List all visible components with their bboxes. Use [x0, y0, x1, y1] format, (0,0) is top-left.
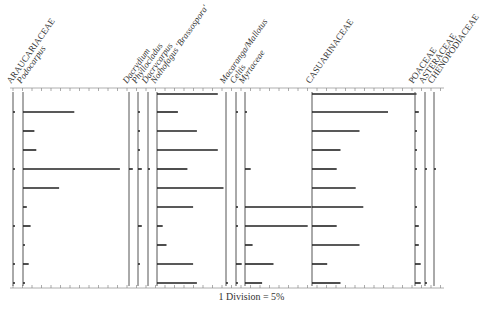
column-macaranga-mallotus [226, 92, 228, 286]
column-dacrycarpus [148, 92, 150, 286]
taxon-columns [13, 92, 436, 286]
taxon-label: ARAUCARIACEAE [4, 16, 57, 85]
axes [10, 88, 444, 288]
column-myrtaceae [245, 92, 312, 286]
column-poaceae [415, 92, 421, 286]
column-nothofagus-brassospora- [157, 92, 224, 286]
column-casuarinaceae [312, 92, 417, 286]
pollen-diagram: ARAUCARIACEAEPodocarpusDacrydiumPhyllocl… [0, 0, 503, 315]
column-podocarpus [23, 92, 120, 286]
column-chenopodiaceae [434, 92, 436, 286]
column-araucariaceae [13, 92, 15, 286]
taxon-label: CASUARINACEAE [303, 17, 355, 85]
column-asteraceae [425, 92, 427, 286]
taxon-labels: ARAUCARIACEAEPodocarpusDacrydiumPhyllocl… [4, 2, 481, 86]
scale-caption: 1 Division = 5% [0, 291, 503, 302]
column-phyllocladus [138, 92, 142, 286]
column-celtis [236, 92, 242, 286]
column-dacrydium [129, 92, 133, 286]
